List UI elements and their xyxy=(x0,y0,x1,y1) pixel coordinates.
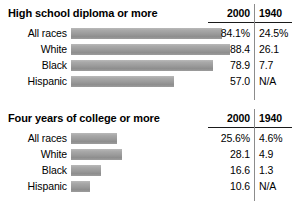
header-rule xyxy=(208,127,292,128)
bar xyxy=(71,181,90,192)
chart-row: All races25.6%4.6% xyxy=(0,131,296,147)
value-1940: 1.3 xyxy=(259,164,295,176)
chart-rows: All races25.6%4.6%White28.14.9Black16.61… xyxy=(0,131,296,195)
column-header-1940: 1940 xyxy=(259,7,295,19)
row-label: Black xyxy=(0,164,67,176)
value-1940: 4.9 xyxy=(259,148,295,160)
row-label: White xyxy=(0,148,67,160)
row-label: Hispanic xyxy=(0,180,67,192)
value-2000: 57.0 xyxy=(205,75,250,87)
column-header-2000: 2000 xyxy=(212,7,250,19)
chart-title: Four years of college or more xyxy=(8,112,160,124)
chart-row: White88.426.1 xyxy=(0,42,296,58)
chart-row: Black16.61.3 xyxy=(0,163,296,179)
bar xyxy=(71,133,117,144)
chart-row: All races84.1%24.5% xyxy=(0,26,296,42)
value-2000: 28.1 xyxy=(205,148,250,160)
value-1940: N/A xyxy=(259,180,295,192)
chart-row: Black78.97.7 xyxy=(0,58,296,74)
bar xyxy=(71,60,213,71)
chart-row: Hispanic57.0N/A xyxy=(0,74,296,90)
row-label: All races xyxy=(0,27,67,39)
bar xyxy=(71,149,122,160)
header-rule xyxy=(208,22,292,23)
value-2000: 10.6 xyxy=(205,180,250,192)
row-label: All races xyxy=(0,132,67,144)
row-label: Black xyxy=(0,59,67,71)
value-2000: 16.6 xyxy=(205,164,250,176)
value-1940: 26.1 xyxy=(259,43,295,55)
chart-block-high-school: High school diploma or more 2000 1940 Al… xyxy=(0,0,296,104)
chart-row: White28.14.9 xyxy=(0,147,296,163)
chart-block-college: Four years of college or more 2000 1940 … xyxy=(0,105,296,213)
value-2000: 88.4 xyxy=(205,43,250,55)
row-label: Hispanic xyxy=(0,75,67,87)
column-header-1940: 1940 xyxy=(259,112,295,124)
column-header-2000: 2000 xyxy=(212,112,250,124)
value-1940: N/A xyxy=(259,75,295,87)
value-2000: 78.9 xyxy=(205,59,250,71)
value-1940: 7.7 xyxy=(259,59,295,71)
value-1940: 4.6% xyxy=(259,132,295,144)
bar xyxy=(71,28,222,39)
chart-title: High school diploma or more xyxy=(8,7,157,19)
chart-rows: All races84.1%24.5%White88.426.1Black78.… xyxy=(0,26,296,90)
value-2000: 84.1% xyxy=(205,27,250,39)
value-1940: 24.5% xyxy=(259,27,295,39)
bar xyxy=(71,165,101,176)
chart-row: Hispanic10.6N/A xyxy=(0,179,296,195)
value-2000: 25.6% xyxy=(205,132,250,144)
bar xyxy=(71,76,174,87)
row-label: White xyxy=(0,43,67,55)
